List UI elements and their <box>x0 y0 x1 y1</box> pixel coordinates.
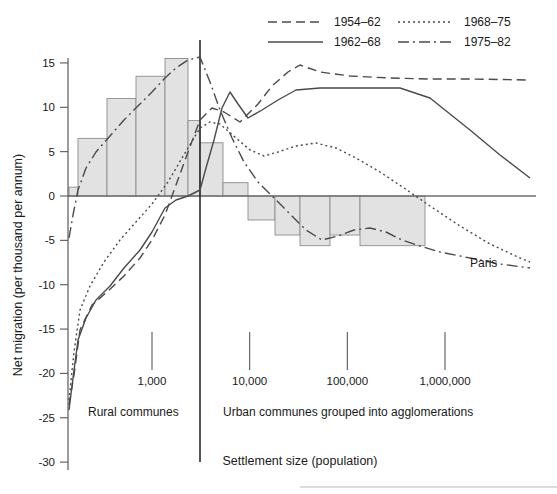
x-tick-label: 100,000 <box>327 375 369 387</box>
bar <box>248 196 275 220</box>
chart-svg: 151050-5-10-15-20-25-30 1,00010,000100,0… <box>0 0 557 494</box>
zone-labels: Rural communesUrban communes grouped int… <box>88 405 473 419</box>
y-tick-label: 5 <box>49 146 55 158</box>
legend-label: 1968–75 <box>464 15 511 29</box>
x-tick-label: 1,000 <box>138 375 167 387</box>
legend-label: 1954–62 <box>334 15 381 29</box>
zone-label: Urban communes grouped into agglomeratio… <box>223 405 473 419</box>
y-tick-label: 10 <box>42 101 55 113</box>
bar <box>300 196 330 246</box>
y-axis: 151050-5-10-15-20-25-30 <box>38 57 68 470</box>
x-axis: 1,00010,000100,0001,000,000 <box>138 332 471 387</box>
bar <box>223 183 248 196</box>
y-tick-label: -25 <box>38 412 55 424</box>
bar <box>360 196 425 246</box>
x-axis-title: Settlement size (population) <box>223 454 378 468</box>
zone-label: Rural communes <box>88 405 179 419</box>
y-tick-label: -10 <box>38 279 55 291</box>
y-axis-title: Net migration (per thousand per annum) <box>11 154 25 376</box>
y-tick-label: 15 <box>42 57 55 69</box>
bar <box>165 59 188 196</box>
migration-chart: 151050-5-10-15-20-25-30 1,00010,000100,0… <box>0 0 557 494</box>
legend-label: 1962–68 <box>334 35 381 49</box>
y-tick-label: -20 <box>38 367 55 379</box>
annotation-label: Paris <box>470 256 497 270</box>
bars-group <box>69 59 425 246</box>
legend: 1954–621968–751962–681975–82 <box>268 15 511 49</box>
y-tick-label: 0 <box>49 190 55 202</box>
y-tick-label: -15 <box>38 323 55 335</box>
y-tick-label: -30 <box>38 456 55 468</box>
annotations: Paris <box>470 256 497 270</box>
x-tick-label: 1,000,000 <box>419 375 470 387</box>
bar <box>330 196 360 235</box>
bar <box>78 138 107 196</box>
y-tick-label: -5 <box>45 234 55 246</box>
x-tick-label: 10,000 <box>232 375 267 387</box>
legend-label: 1975–82 <box>464 35 511 49</box>
bar <box>107 98 136 196</box>
